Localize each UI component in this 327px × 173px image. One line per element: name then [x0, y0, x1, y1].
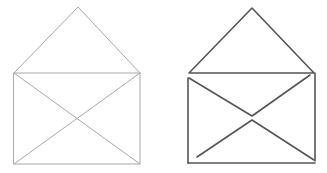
envelope-lower-fold [197, 120, 314, 160]
open-envelope-light-icon [14, 7, 140, 164]
envelope-diagram [0, 0, 327, 173]
envelope-flap [189, 8, 314, 73]
open-envelope-dark-icon [188, 8, 315, 163]
diagram-canvas [0, 0, 327, 173]
envelope-flap [14, 7, 140, 73]
envelope-upper-fold [189, 75, 310, 116]
